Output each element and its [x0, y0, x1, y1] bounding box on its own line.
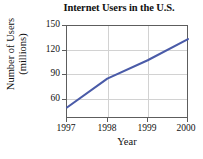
- x-axis-label-1997: 1997: [49, 123, 83, 134]
- x-axis-tick-2000: [187, 118, 188, 122]
- y-axis-title: Number of Users (millions): [5, 4, 29, 104]
- y-axis-label-90: 90: [34, 69, 60, 79]
- x-axis-tick-1999: [147, 118, 148, 122]
- chart-title: Internet Users in the U.S.: [36, 2, 202, 13]
- y-axis-label-120: 120: [34, 45, 60, 55]
- x-axis-title: Year: [66, 136, 188, 147]
- y-axis-label-150: 150: [34, 20, 60, 30]
- x-axis-tick-1998: [107, 118, 108, 122]
- y-axis-title-line1: Number of Users: [5, 4, 17, 104]
- x-axis-tick-1997: [66, 118, 67, 122]
- x-axis-label-2000: 2000: [169, 123, 203, 134]
- y-axis-label-60: 60: [34, 94, 60, 104]
- x-axis-label-1998: 1998: [90, 123, 124, 134]
- chart-screenshot: Internet Users in the U.S. 150 120 90 60…: [0, 0, 203, 159]
- x-axis-label-1999: 1999: [130, 123, 164, 134]
- y-axis-title-line2: (millions): [17, 4, 29, 104]
- series-line-internet-users: [67, 26, 189, 119]
- plot-area: [66, 25, 188, 118]
